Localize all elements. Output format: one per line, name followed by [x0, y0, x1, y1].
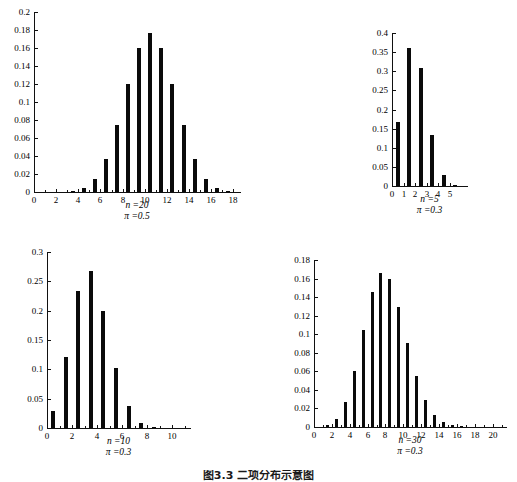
bar [152, 427, 156, 428]
x-axis-minor-tick [502, 425, 503, 428]
x-axis-tick [122, 425, 123, 429]
bar [396, 122, 400, 186]
bar [51, 411, 55, 428]
y-axis-tick-label: 0.4 [360, 29, 388, 38]
bar [71, 191, 75, 192]
bar [204, 179, 208, 192]
bar [424, 400, 427, 427]
x-axis-minor-tick [448, 425, 449, 428]
x-axis-minor-tick [67, 190, 68, 193]
x-axis-tick [392, 183, 393, 187]
x-axis-minor-tick [160, 426, 161, 429]
y-axis-tick-label: 0.06 [258, 367, 310, 376]
x-axis-minor-tick [466, 425, 467, 428]
y-axis-tick [314, 260, 318, 261]
x-axis-minor-tick [185, 426, 186, 429]
bar [419, 68, 423, 186]
bar [460, 426, 463, 427]
y-axis-tick-label: 0.02 [258, 404, 310, 413]
plot-area: 00.050.10.150.20.250.30246810 [18, 242, 218, 467]
bar [64, 357, 68, 428]
y-axis-tick [314, 316, 318, 317]
figure-caption: 图3.3 二项分布示意图 [0, 470, 517, 482]
x-axis-tick [145, 189, 146, 193]
x-axis-tick [147, 425, 148, 429]
y-axis-tick-label: 0.2 [18, 307, 43, 316]
y-axis-tick-label: 0.3 [18, 248, 43, 257]
x-axis-tick [350, 424, 351, 428]
x-axis-tick [403, 424, 404, 428]
y-axis-tick-label: 0.12 [6, 80, 30, 89]
bar [159, 48, 163, 192]
bar [137, 48, 141, 192]
bar [407, 48, 411, 186]
x-axis-tick [493, 424, 494, 428]
y-axis-tick-label: 0.15 [18, 336, 43, 345]
y-axis-tick [314, 390, 318, 391]
panel-caption-line: π =0.3 [314, 446, 506, 457]
bar [430, 135, 434, 186]
x-axis-minor-tick [430, 425, 431, 428]
x-axis-minor-tick [178, 190, 179, 193]
y-axis-tick-label: 0.02 [6, 170, 30, 179]
bar [451, 425, 454, 427]
y-axis-tick-label: 0.2 [360, 106, 388, 115]
y-axis-tick-label: 0.04 [6, 152, 30, 161]
y-axis-tick [47, 311, 51, 312]
x-axis-minor-tick [135, 426, 136, 429]
x-axis-tick [439, 424, 440, 428]
x-axis-tick [404, 183, 405, 187]
bar [170, 84, 174, 192]
x-axis-minor-tick [45, 190, 46, 193]
y-axis-tick-label: 0 [360, 182, 388, 191]
chart-panel-n10-p03: 00.050.10.150.20.250.30246810 n =10π =0.… [18, 242, 218, 467]
y-axis-tick [34, 66, 38, 67]
bar [371, 292, 374, 427]
x-axis-minor-tick [112, 190, 113, 193]
y-axis-tick-label: 0.16 [258, 275, 310, 284]
bar [114, 368, 118, 428]
bar [126, 84, 130, 192]
x-axis-tick [475, 424, 476, 428]
x-axis-minor-tick [85, 426, 86, 429]
x-axis-line [34, 192, 241, 193]
y-axis-tick [47, 340, 51, 341]
y-axis-tick-label: 0.25 [18, 277, 43, 286]
y-axis-tick-label: 0.14 [258, 293, 310, 302]
y-axis-tick [314, 279, 318, 280]
y-axis-tick-label: 0.04 [258, 386, 310, 395]
x-axis-tick [332, 424, 333, 428]
bar [433, 415, 436, 427]
y-axis-line [314, 260, 315, 428]
bar [93, 179, 97, 192]
y-axis-tick-label: 0.3 [360, 67, 388, 76]
y-axis-tick [34, 48, 38, 49]
bar [415, 376, 418, 427]
y-axis-tick-label: 0.1 [258, 330, 310, 339]
x-axis-minor-tick [359, 425, 360, 428]
bar [76, 291, 80, 428]
x-axis-minor-tick [222, 190, 223, 193]
y-axis-tick [392, 33, 396, 34]
panel-caption-line: n =10 [47, 436, 190, 447]
bar [82, 188, 86, 192]
y-axis-tick-label: 0.2 [6, 8, 30, 17]
y-axis-tick-label: 0.12 [258, 312, 310, 321]
x-axis-tick [421, 424, 422, 428]
panel-caption: n =20π =0.5 [34, 200, 240, 222]
panel-caption-line: π =0.5 [34, 211, 240, 222]
y-axis-tick [314, 353, 318, 354]
y-axis-tick [314, 371, 318, 372]
x-axis-minor-tick [134, 190, 135, 193]
bar [453, 185, 457, 186]
y-axis-tick [34, 84, 38, 85]
y-axis-tick [314, 408, 318, 409]
panel-caption-line: π =0.3 [47, 447, 190, 458]
y-axis-tick-label: 0.1 [18, 365, 43, 374]
y-axis-tick-label: 0.1 [6, 98, 30, 107]
y-axis-tick [34, 30, 38, 31]
y-axis-tick [314, 297, 318, 298]
chart-panel-n30-p03: 00.020.040.060.080.10.120.140.160.180246… [258, 252, 514, 467]
x-axis-minor-tick [484, 425, 485, 428]
y-axis-tick-label: 0.1 [360, 144, 388, 153]
